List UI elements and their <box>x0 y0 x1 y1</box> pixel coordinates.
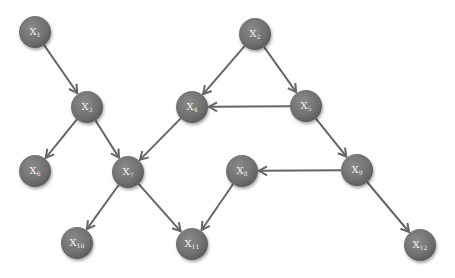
edge-x8-to-x11 <box>202 184 233 230</box>
edge-x5-to-x9 <box>316 119 346 157</box>
edge-x7-to-x10 <box>87 185 119 229</box>
edge-line <box>139 184 181 231</box>
node-x3: X3 <box>71 91 103 123</box>
edge-line <box>96 121 119 158</box>
edge-x9-to-x12 <box>367 182 409 232</box>
edge-line <box>202 184 233 230</box>
edge-x4-to-x7 <box>140 118 181 159</box>
edge-line <box>259 170 341 171</box>
node-x6: X6 <box>19 155 51 187</box>
edge-x5-to-x4 <box>209 102 290 111</box>
edge-line <box>87 185 119 229</box>
edge-line <box>264 47 296 92</box>
node-x12: X12 <box>404 229 436 261</box>
node-x9: X9 <box>341 154 373 186</box>
node-x4: X4 <box>176 91 208 123</box>
node-x1: X1 <box>19 16 51 48</box>
nodes-layer: X1X2X3X4X5X6X7X8X9X10X11X12 <box>19 16 436 261</box>
node-x5: X5 <box>290 90 322 122</box>
edge-line <box>316 119 346 157</box>
node-x7: X7 <box>112 156 144 188</box>
edge-line <box>44 45 77 93</box>
edge-line <box>140 118 181 159</box>
edges-layer <box>44 45 409 232</box>
node-x8: X8 <box>226 155 258 187</box>
node-x10: X10 <box>61 227 93 259</box>
edge-line <box>209 106 290 107</box>
graph-canvas: X1X2X3X4X5X6X7X8X9X10X11X12 <box>0 0 455 278</box>
edge-x3-to-x6 <box>46 119 77 157</box>
edge-x9-to-x8 <box>259 166 341 175</box>
edge-x2-to-x5 <box>264 47 296 92</box>
node-x11: X11 <box>176 228 208 260</box>
edge-x2-to-x4 <box>203 46 244 94</box>
edge-line <box>46 119 77 157</box>
edge-line <box>203 46 244 94</box>
edge-x1-to-x3 <box>44 45 77 93</box>
edge-x3-to-x7 <box>96 121 119 158</box>
edge-x7-to-x11 <box>139 184 181 231</box>
node-x2: X2 <box>239 18 271 50</box>
edge-line <box>367 182 409 232</box>
